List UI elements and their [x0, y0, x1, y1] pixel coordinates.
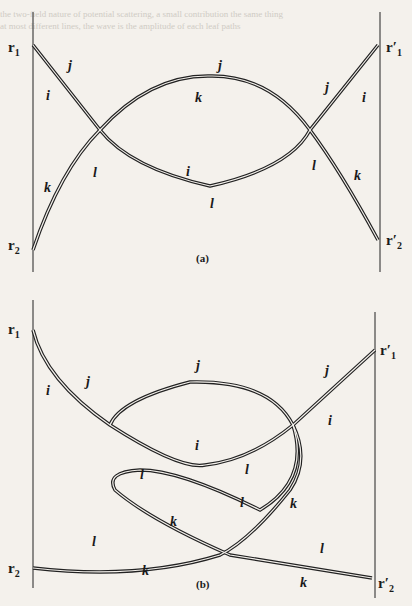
label-l: l	[210, 196, 214, 211]
diagram: r1 r2 r′1 r′2 j i j k j i k l i l l k (a…	[0, 0, 412, 606]
label-l: l	[320, 541, 324, 556]
endpoint-r2p-b: r′2	[378, 575, 394, 594]
label-j: j	[323, 363, 329, 378]
label-i: i	[328, 413, 332, 428]
caption-a: (a)	[196, 252, 209, 265]
label-i: i	[46, 88, 50, 103]
label-l: l	[245, 462, 249, 477]
label-i: i	[195, 438, 199, 453]
label-k: k	[300, 575, 307, 590]
label-k: k	[354, 168, 361, 183]
label-k: k	[290, 496, 297, 511]
label-j: j	[84, 374, 90, 389]
label-l: l	[312, 158, 316, 173]
label-l: l	[93, 165, 97, 180]
label-k: k	[142, 563, 149, 578]
endpoint-r2-a: r2	[8, 237, 20, 256]
label-i: i	[186, 164, 190, 179]
label-j: j	[323, 80, 329, 95]
label-j: j	[194, 358, 200, 373]
endpoint-r2-b: r2	[8, 560, 20, 579]
label-l: l	[240, 495, 244, 510]
endpoint-r1-a: r1	[8, 39, 20, 58]
label-k: k	[44, 180, 51, 195]
endpoint-r1-b: r1	[8, 321, 20, 340]
label-k: k	[170, 514, 177, 529]
label-j: j	[66, 58, 72, 73]
caption-b: (b)	[196, 578, 210, 591]
label-i: i	[46, 383, 50, 398]
label-j: j	[216, 58, 222, 73]
endpoint-r2p-a: r′2	[386, 232, 402, 251]
endpoint-r1p-a: r′1	[386, 39, 402, 58]
endpoint-r1p-b: r′1	[380, 342, 396, 361]
label-l: l	[140, 467, 144, 482]
label-k: k	[195, 90, 202, 105]
label-i: i	[362, 90, 366, 105]
label-l: l	[92, 534, 96, 549]
